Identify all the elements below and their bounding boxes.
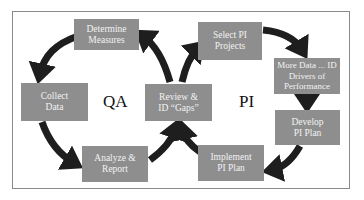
arrow-review-to-select (182, 48, 198, 82)
step-implement-pi-plan: Implement PI Plan (198, 145, 264, 181)
step-more-data: More Data ... ID Drivers of Performance (274, 58, 340, 94)
step-label: Select PI Projects (206, 30, 254, 52)
step-select-pi-projects: Select PI Projects (198, 22, 262, 60)
step-label: More Data ... ID Drivers of Performance (276, 60, 338, 92)
step-review-gaps: Review & ID “Gaps” (145, 84, 212, 121)
step-label: Develop PI Plan (288, 117, 328, 139)
pi-cycle-label: PI (239, 92, 254, 112)
arrow-review-to-determine (143, 36, 170, 82)
step-determine-measures: Determine Measures (74, 19, 139, 50)
arrow-collect-to-analyze (42, 122, 74, 163)
step-label: Implement PI Plan (206, 152, 256, 174)
step-develop-pi-plan: Develop PI Plan (275, 110, 340, 145)
step-analyze-report: Analyze & Report (82, 146, 148, 182)
step-label: Review & ID “Gaps” (154, 92, 204, 114)
step-collect-data: Collect Data (21, 83, 88, 121)
arrow-analyze-to-review (150, 128, 176, 160)
arrow-develop-to-implement (272, 146, 300, 170)
qa-cycle-label: QA (103, 92, 128, 112)
arrow-select-to-moredata (263, 30, 302, 50)
step-label: Analyze & Report (92, 153, 138, 175)
step-label: Collect Data (37, 91, 73, 113)
step-label: Determine Measures (76, 24, 137, 46)
arrow-determine-to-collect (40, 36, 78, 74)
